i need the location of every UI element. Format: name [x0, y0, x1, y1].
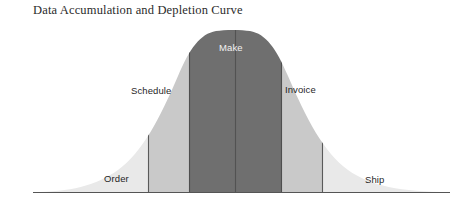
curve-label-order: Order — [104, 173, 129, 184]
accumulation-depletion-chart: Order Schedule Make Invoice Ship — [0, 0, 465, 205]
curve-label-invoice: Invoice — [285, 84, 316, 95]
segment-schedule — [148, 0, 189, 193]
curve-label-make: Make — [219, 42, 243, 53]
bell-curve-svg — [0, 0, 465, 205]
segment-invoice — [281, 0, 322, 193]
segment-ship — [322, 0, 465, 193]
segment-order — [0, 0, 148, 193]
curve-label-schedule: Schedule — [131, 85, 171, 96]
curve-label-ship: Ship — [365, 174, 384, 185]
figure-container: Data Accumulation and Depletion Curve — [0, 0, 465, 205]
